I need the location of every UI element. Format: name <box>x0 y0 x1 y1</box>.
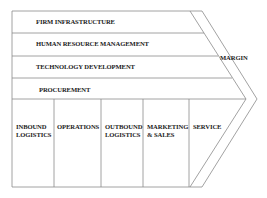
primary-line1: OUTBOUND <box>105 123 142 131</box>
primary-line2: & SALES <box>147 131 188 139</box>
support-activity-hrm: HUMAN RESOURCE MANAGEMENT <box>36 40 149 48</box>
margin-label: MARGIN <box>220 54 248 62</box>
primary-line1: MARKETING <box>147 123 188 131</box>
primary-line1: SERVICE <box>193 123 221 131</box>
value-chain-diagram <box>0 0 267 198</box>
primary-line2: LOGISTICS <box>105 131 142 139</box>
primary-activity-service: SERVICE <box>193 123 221 131</box>
primary-line2: LOGISTICS <box>16 131 51 139</box>
primary-line1: INBOUND <box>16 123 51 131</box>
primary-activity-outbound-logistics: OUTBOUND LOGISTICS <box>105 123 142 139</box>
support-activity-firm-infrastructure: FIRM INFRASTRUCTURE <box>36 18 115 26</box>
primary-activity-marketing-sales: MARKETING & SALES <box>147 123 188 139</box>
support-activity-procurement: PROCUREMENT <box>39 86 90 94</box>
primary-activity-operations: OPERATIONS <box>57 123 99 131</box>
support-activity-technology: TECHNOLOGY DEVELOPMENT <box>36 63 135 71</box>
primary-activity-inbound-logistics: INBOUND LOGISTICS <box>16 123 51 139</box>
primary-line1: OPERATIONS <box>57 123 99 131</box>
